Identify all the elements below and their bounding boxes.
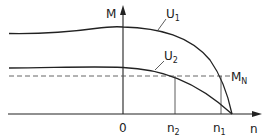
y-axis	[120, 5, 126, 114]
y-axis-label: M	[106, 7, 116, 21]
n2-label: n2	[167, 121, 180, 137]
n1-label: n1	[213, 121, 226, 137]
x-axis-arrow-icon	[252, 111, 262, 117]
x-axis	[8, 111, 262, 117]
y-axis-arrow-icon	[120, 5, 126, 15]
origin-label: 0	[119, 121, 127, 135]
u1-leader-line	[158, 19, 166, 30]
mn-label: MN	[231, 70, 247, 86]
curve-u2	[9, 67, 232, 114]
u2-leader-line	[155, 61, 164, 70]
x-axis-label: n	[250, 122, 258, 136]
torque-speed-diagram: M U1 U2 MN 0 n2 n1 n	[0, 0, 268, 140]
curve-u1-label: U1	[166, 7, 180, 23]
curve-u2-label: U2	[164, 49, 178, 65]
curve-u1	[9, 27, 232, 114]
